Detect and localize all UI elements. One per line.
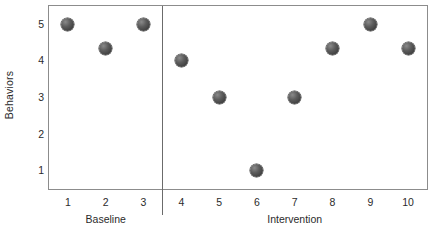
scatter-chart-figure: Behaviors 54321 12345678910BaselineInter…	[0, 0, 437, 245]
x-axis-tick-label: 8	[318, 196, 348, 208]
x-axis-tick-label: 3	[129, 196, 159, 208]
phase-label-baseline: Baseline	[26, 213, 186, 225]
x-axis-tick-label: 7	[280, 196, 310, 208]
x-axis-tick-label: 2	[91, 196, 121, 208]
x-axis-tick-label: 10	[393, 196, 423, 208]
x-axis-tick-label: 4	[166, 196, 196, 208]
phase-label-intervention: Intervention	[215, 213, 375, 225]
x-axis-tick-label: 9	[355, 196, 385, 208]
x-axis-tick-label: 5	[204, 196, 234, 208]
x-axis-tick-label: 6	[242, 196, 272, 208]
x-axis-tick-label: 1	[53, 196, 83, 208]
x-axis-tick-labels: 12345678910BaselineIntervention	[0, 0, 437, 245]
